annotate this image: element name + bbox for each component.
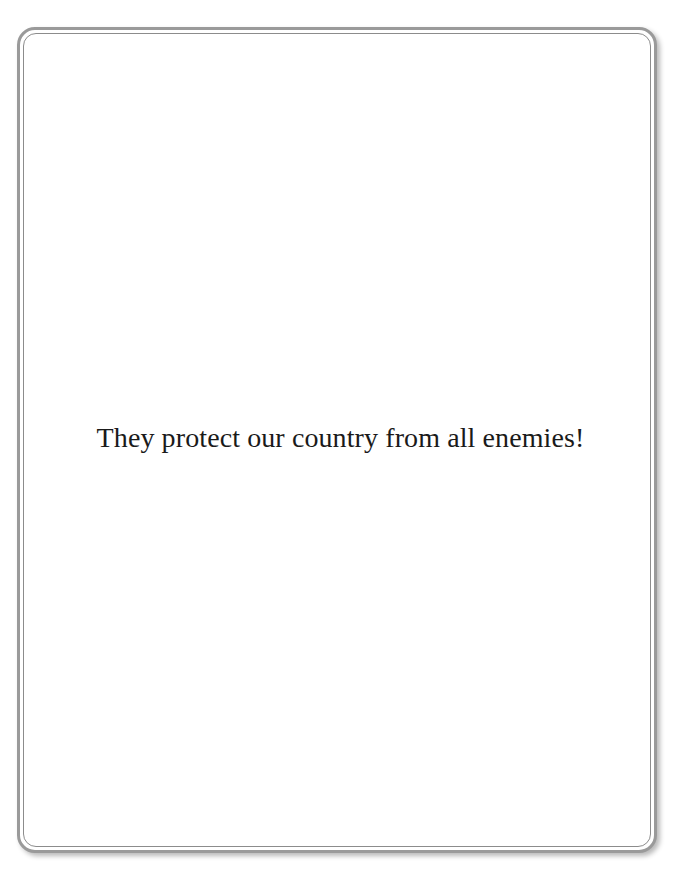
page-caption: They protect our country from all enemie…: [0, 422, 681, 454]
